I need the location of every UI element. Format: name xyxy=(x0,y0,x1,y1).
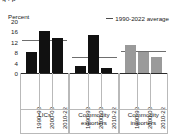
bar-group xyxy=(20,21,69,73)
panel-tick-area: 1990-992000-092010-22 xyxy=(120,73,167,109)
group-name-label: Commodityexporters xyxy=(70,111,117,126)
y-tick-label: 16 xyxy=(11,28,18,35)
panel-tick-area: 1990-992000-092010-22 xyxy=(70,73,117,109)
y-tick-label: 0 xyxy=(15,70,18,77)
average-line-swatch-icon xyxy=(106,18,113,19)
bar xyxy=(26,52,37,73)
bar xyxy=(151,57,162,73)
bar xyxy=(125,45,136,73)
panel-divider xyxy=(21,109,68,110)
bar xyxy=(138,52,149,73)
group-panel: 1990-992000-092010-22Commodityexporters xyxy=(69,73,118,134)
group-name-line1: Commodity xyxy=(120,111,167,119)
y-axis-tick-labels: 201612840 xyxy=(4,21,18,73)
category-panels: 1990-992000-092010-22LICs1990-992000-092… xyxy=(20,73,168,134)
group-panel: 1990-992000-092010-22Commodityimporters xyxy=(119,73,168,134)
group-name-label: LICs xyxy=(21,111,68,119)
panel-separator xyxy=(137,73,138,109)
group-name-line2: exporters xyxy=(70,119,117,127)
panel-separator xyxy=(150,73,151,109)
panel-separator xyxy=(52,73,53,109)
panel-tick-area: 1990-992000-092010-22 xyxy=(21,73,68,109)
panel-separator xyxy=(101,73,102,109)
plot-area xyxy=(20,21,168,73)
group-name-label: Commodityimporters xyxy=(120,111,167,126)
clipped-title-fragment: g . p xyxy=(2,0,16,2)
chart-figure: g . p Percent 1990-2022 average 20161284… xyxy=(0,0,173,136)
bar-group xyxy=(119,21,168,73)
bar xyxy=(88,35,99,73)
group-name-line2: importers xyxy=(120,119,167,127)
y-tick-label: 20 xyxy=(11,18,18,25)
panel-separator xyxy=(88,73,89,109)
panel-divider xyxy=(120,109,167,110)
y-tick-label: 4 xyxy=(15,59,18,66)
group-name-line1: Commodity xyxy=(70,111,117,119)
bar xyxy=(75,66,86,73)
bar xyxy=(39,31,50,73)
y-tick-label: 12 xyxy=(11,38,18,45)
group-panel: 1990-992000-092010-22LICs xyxy=(20,73,69,134)
panel-divider xyxy=(70,109,117,110)
bar-group xyxy=(69,21,118,73)
panel-separator xyxy=(39,73,40,109)
bar xyxy=(52,38,63,73)
y-tick-label: 8 xyxy=(15,49,18,56)
